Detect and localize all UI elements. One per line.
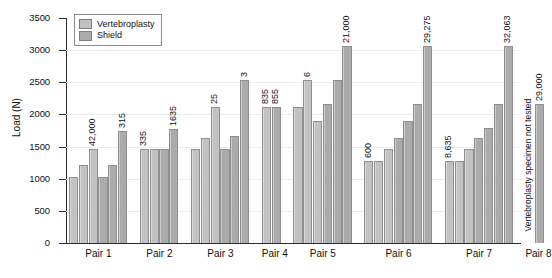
bar <box>159 149 168 244</box>
bar <box>364 161 373 243</box>
plot-area: 42,0003153351635253835855621,00060029,27… <box>66 18 520 243</box>
bar-value-label: 42,000 <box>88 118 97 146</box>
bar <box>455 161 464 243</box>
bar <box>374 161 383 243</box>
bar-value-label: 21,000 <box>342 16 351 44</box>
bar <box>535 104 544 244</box>
bar <box>303 80 312 243</box>
chart-legend: VertebroplastyShield <box>74 14 162 46</box>
bar-group: 253 <box>191 18 250 243</box>
bar-value-label: 8,635 <box>444 136 453 159</box>
bar <box>211 107 220 243</box>
bar <box>191 149 200 244</box>
bar <box>69 177 78 243</box>
bar-group: 3351635 <box>140 18 179 243</box>
bar <box>313 121 322 243</box>
bar <box>98 177 107 243</box>
bar <box>323 104 332 244</box>
bar <box>484 128 493 243</box>
bar <box>494 104 503 244</box>
bar-value-label: 600 <box>364 143 373 158</box>
legend-swatch-icon <box>79 31 92 41</box>
bar-value-label: 335 <box>139 130 148 145</box>
bar-value-label: 1635 <box>169 106 178 126</box>
bar <box>240 80 249 243</box>
bar-value-label: 3 <box>240 72 249 77</box>
y-tick-label: 3000 <box>10 45 50 55</box>
x-category-label: Pair 2 <box>140 249 179 259</box>
bar-value-label: 6 <box>303 72 312 77</box>
x-category-label: Pair 1 <box>69 249 128 259</box>
y-tick-label: 2500 <box>10 77 50 87</box>
bar-group: 42,000315 <box>69 18 128 243</box>
x-axis-line <box>66 243 521 244</box>
bar-group: 8,63532,063 <box>445 18 514 243</box>
legend-label: Vertebroplasty <box>97 20 155 29</box>
bar-group: 621,000 <box>293 18 352 243</box>
bar <box>108 165 117 243</box>
bar-value-label: 29,000 <box>535 73 544 101</box>
x-category-label: Pair 8 <box>525 249 545 259</box>
bar-value-label: 32,063 <box>503 16 512 44</box>
bar <box>413 104 422 244</box>
bar <box>423 46 432 243</box>
bar <box>293 107 302 243</box>
bar <box>464 149 473 244</box>
y-tick-label: 2000 <box>10 109 50 119</box>
y-tick-label: 500 <box>10 206 50 216</box>
bar <box>201 138 210 243</box>
y-tick-label: 1000 <box>10 174 50 184</box>
bar <box>272 107 281 243</box>
legend-item-shield: Shield <box>79 30 155 41</box>
legend-swatch-icon <box>79 19 92 29</box>
bar <box>140 149 149 244</box>
bar <box>262 107 271 243</box>
x-category-label: Pair 7 <box>445 249 514 259</box>
x-category-label: Pair 3 <box>191 249 250 259</box>
bar <box>394 138 403 243</box>
x-category-label: Pair 4 <box>262 249 282 259</box>
bar <box>79 165 88 243</box>
bar <box>118 131 127 243</box>
bar <box>445 161 454 243</box>
bar <box>230 136 239 243</box>
group-note: Vertebroplasty specimen not tested <box>524 98 533 231</box>
bar-value-label: 25 <box>210 94 219 104</box>
bar <box>342 46 351 243</box>
legend-label: Shield <box>97 31 122 40</box>
y-tick-label: 0 <box>10 238 50 248</box>
bar-group: 835855 <box>262 18 282 243</box>
bar <box>220 149 229 244</box>
x-category-label: Pair 6 <box>364 249 433 259</box>
bar-group: Vertebroplasty specimen not tested29,000 <box>525 18 545 243</box>
bar-value-label: 855 <box>271 89 280 104</box>
bar <box>403 121 412 243</box>
bar <box>169 129 178 243</box>
legend-item-vertebroplasty: Vertebroplasty <box>79 19 155 30</box>
bar <box>474 138 483 243</box>
bar <box>150 149 159 244</box>
y-tick-label: 1500 <box>10 142 50 152</box>
bar <box>89 149 98 244</box>
bar-group: 60029,275 <box>364 18 433 243</box>
bar <box>333 80 342 243</box>
bar-value-label: 29,275 <box>423 16 432 44</box>
bar-value-label: 315 <box>118 113 127 128</box>
bar <box>384 149 393 244</box>
x-category-label: Pair 5 <box>293 249 352 259</box>
y-tick-label: 3500 <box>10 13 50 23</box>
bar <box>504 46 513 243</box>
